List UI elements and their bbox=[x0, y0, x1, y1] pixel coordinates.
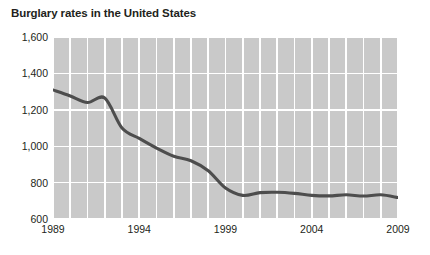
y-tick-label: 800 bbox=[4, 177, 48, 189]
plot-area-wrapper bbox=[53, 37, 398, 219]
x-tick-label: 2009 bbox=[386, 223, 409, 235]
chart-title: Burglary rates in the United States bbox=[11, 7, 196, 19]
y-tick-label: 1,600 bbox=[4, 31, 48, 43]
x-tick-label: 1989 bbox=[41, 223, 64, 235]
x-tick-label: 1999 bbox=[214, 223, 237, 235]
y-tick-label: 1,000 bbox=[4, 140, 48, 152]
series-path bbox=[53, 90, 398, 198]
x-tick-label: 2004 bbox=[300, 223, 323, 235]
series-line-burglary-rate bbox=[53, 37, 398, 219]
y-tick-label: 1,400 bbox=[4, 67, 48, 79]
y-tick-label: 1,200 bbox=[4, 104, 48, 116]
chart-figure: Burglary rates in the United States 6008… bbox=[0, 0, 430, 255]
y-tick-label: 600 bbox=[4, 213, 48, 225]
x-tick-label: 1994 bbox=[128, 223, 151, 235]
